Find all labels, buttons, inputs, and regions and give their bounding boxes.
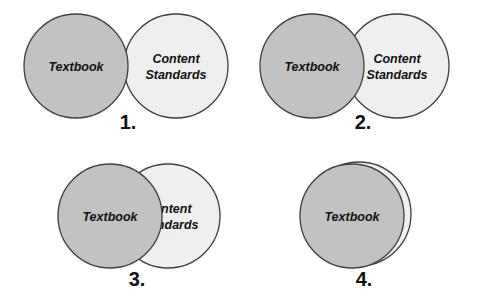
panel-1: ContentStandardsTextbook <box>24 14 228 118</box>
panel-number-1: 1. <box>108 111 148 134</box>
panel-number-2: 2. <box>343 111 383 134</box>
panel-number-3: 3. <box>117 268 157 291</box>
venn-diagram-figure: ContentStandardsTextbookContentStandards… <box>0 0 477 308</box>
textbook-label: Textbook <box>48 60 104 74</box>
content-standards-label-line: Content <box>152 52 200 66</box>
panel-4: ContentStandardsTextbook <box>300 162 411 268</box>
textbook-label: Textbook <box>284 60 340 74</box>
panel-3: ContentStandardsTextbook <box>58 164 220 268</box>
panel-number-4: 4. <box>344 268 384 291</box>
textbook-label: Textbook <box>324 210 380 224</box>
content-standards-label-line: Standards <box>366 68 427 82</box>
content-standards-circle <box>124 14 228 118</box>
content-standards-label-line: Content <box>373 52 421 66</box>
textbook-label: Textbook <box>82 210 138 224</box>
diagram-canvas: ContentStandardsTextbookContentStandards… <box>0 0 477 308</box>
content-standards-label-line: Standards <box>145 68 206 82</box>
panel-2: ContentStandardsTextbook <box>260 14 449 118</box>
